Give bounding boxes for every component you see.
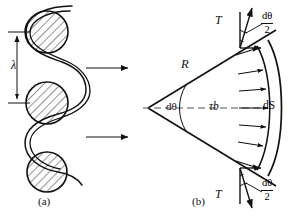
tension-vector-bottom [240,168,261,208]
tension-label-top: T [215,14,222,26]
apex-angle-label-dtheta: dθ [166,101,177,112]
distributed-load-label-taub: τb [209,101,219,113]
half-angle-numerator-top: dθ [261,11,273,24]
half-angle-leader-bottom [246,183,262,192]
radius-line-lower [148,108,276,186]
half-angle-fraction-top: dθ 2 [261,11,273,35]
roller-middle [26,82,68,124]
roller-top [26,11,68,53]
pitch-label-lambda: λ [11,59,16,71]
panel-a-caption: (a) [38,196,50,207]
half-angle-denominator-bottom: 2 [261,191,273,203]
radius-line-upper [148,30,276,108]
figure-vector-layer [0,0,290,216]
engineering-figure: λ (a) R dθ τb dS T T dθ 2 dθ 2 (b) [0,0,290,216]
arc-length-label-dS: dS [263,100,275,112]
tension-label-bottom: T [215,188,222,200]
half-angle-denominator-top: 2 [261,24,273,36]
half-angle-numerator-bottom: dθ [261,178,273,191]
radius-label-R: R [181,58,189,71]
half-angle-fraction-bottom: dθ 2 [261,178,273,202]
tension-vector-top [240,8,261,48]
half-angle-leader-top [246,24,262,33]
panel-b-caption: (b) [192,196,205,207]
panel-a-graphics [8,6,128,192]
roller-bottom [27,152,67,192]
